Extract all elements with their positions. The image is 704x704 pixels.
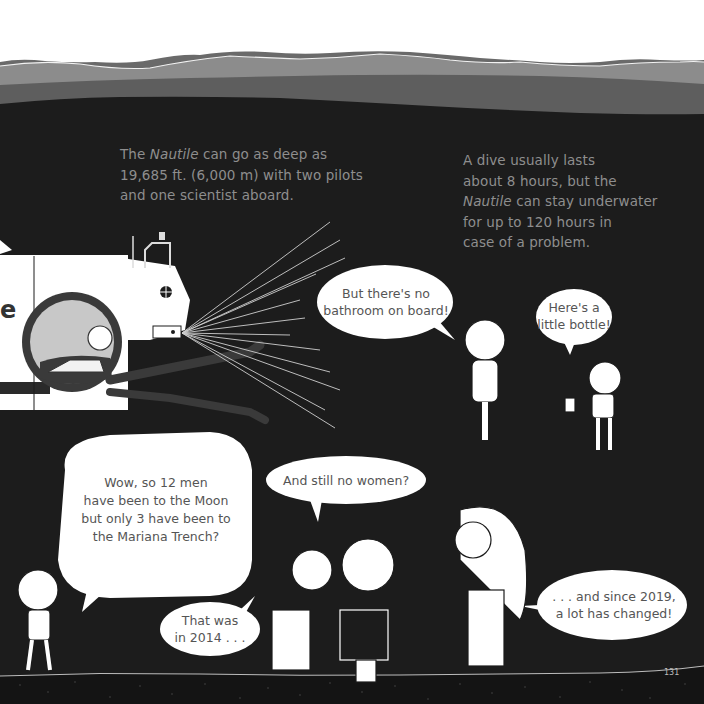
speech-bubble-women: And still no women? <box>266 470 426 490</box>
caption-text: and one scientist aboard. <box>120 187 294 203</box>
bubble-text: That was <box>174 612 245 629</box>
caption-italic-nautile: Nautile <box>150 146 199 162</box>
speech-bubble-bottle: Here's alittle bottle! <box>536 296 612 336</box>
speech-bubble-2014: That wasin 2014 . . . <box>160 610 260 648</box>
bubble-text: Wow, so 12 men <box>81 474 230 492</box>
speech-bubble-moon: Wow, so 12 menhave been to the Moonbut o… <box>60 470 252 550</box>
page-number: 131 <box>664 668 679 677</box>
bubble-text: Here's a <box>537 299 610 316</box>
bubble-text: a lot has changed! <box>552 605 676 622</box>
caption-text: A dive usually lasts <box>463 152 595 168</box>
caption-duration: A dive usually lasts about 8 hours, but … <box>463 150 693 253</box>
bubble-text: but only 3 have been to <box>81 510 230 528</box>
caption-text: The <box>120 146 150 162</box>
caption-text: can go as deep as <box>199 146 328 162</box>
comic-page: The Nautile can go as deep as 19,685 ft.… <box>0 0 704 704</box>
bubble-text: bathroom on board! <box>323 302 448 319</box>
bubble-text: little bottle! <box>537 316 610 333</box>
caption-text: 19,685 ft. (6,000 m) with two pilots <box>120 167 363 183</box>
caption-italic-nautile: Nautile <box>463 193 512 209</box>
caption-text: can stay underwater <box>512 193 658 209</box>
caption-depth: The Nautile can go as deep as 19,685 ft.… <box>120 144 380 206</box>
speech-bubble-bathroom: But there's nobathroom on board! <box>318 280 454 324</box>
caption-text: for up to 120 hours in <box>463 214 612 230</box>
bubble-text: . . . and since 2019, <box>552 588 676 605</box>
bubble-text: And still no women? <box>283 472 409 489</box>
caption-text: case of a problem. <box>463 234 590 250</box>
caption-text: about 8 hours, but the <box>463 173 617 189</box>
speech-bubble-2019: . . . and since 2019,a lot has changed! <box>540 584 688 626</box>
bubble-text: But there's no <box>323 285 448 302</box>
hull-letter: e <box>0 296 16 324</box>
bubble-text: the Mariana Trench? <box>81 528 230 546</box>
bubble-text: have been to the Moon <box>81 492 230 510</box>
bubble-text: in 2014 . . . <box>174 629 245 646</box>
